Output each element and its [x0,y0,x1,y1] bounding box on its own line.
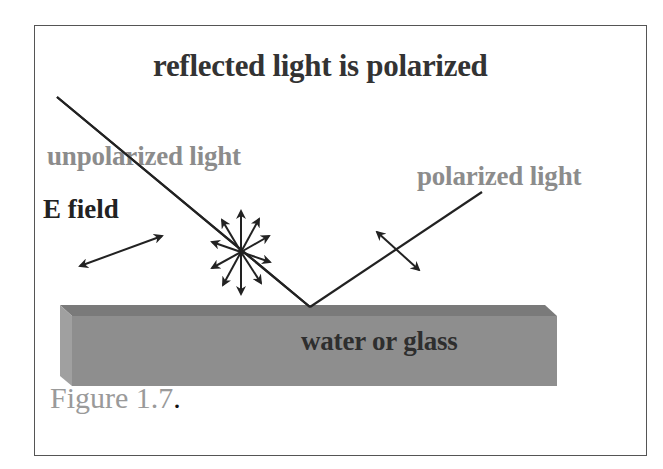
diagram-title: reflected light is polarized [153,50,488,81]
e-field-double-arrow-icon [80,236,162,266]
figure-caption: Figure 1.7. [50,383,181,413]
block-side-face [60,305,72,386]
caption-period: . [173,381,181,414]
caption-text: Figure 1.7 [50,381,173,414]
unpolarized-light-label: unpolarized light [47,143,241,170]
water-or-glass-label: water or glass [301,328,458,355]
polarized-light-label: polarized light [417,163,581,190]
unpolarized-star-icon [212,211,270,294]
e-field-label: E field [43,196,119,223]
